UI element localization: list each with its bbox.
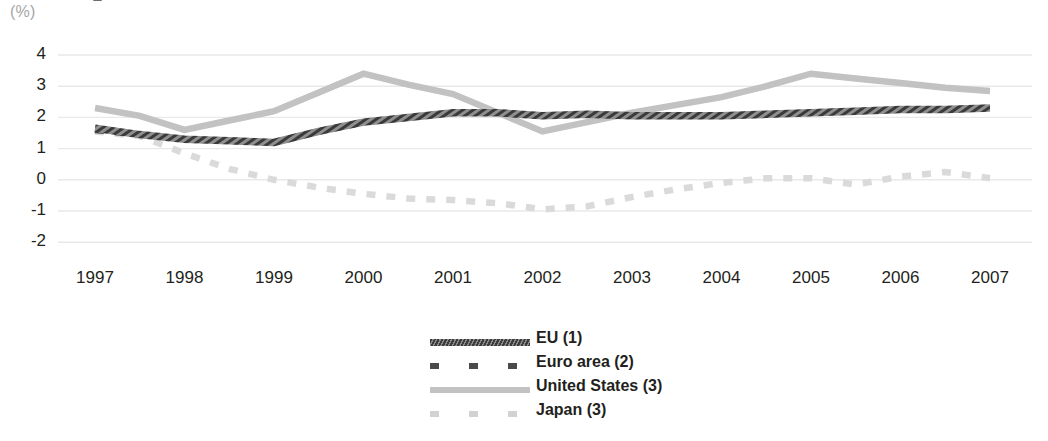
legend-swatch-united-states — [430, 387, 530, 393]
legend-label-eu: EU (1) — [536, 329, 582, 347]
chart-container: (%) 43210-1-2 19971998199920002001200220… — [0, 0, 1048, 441]
legend-label-japan: Japan (3) — [536, 401, 606, 419]
legend-label-euro-area: Euro area (2) — [536, 353, 634, 371]
legend-swatch-japan — [430, 411, 530, 417]
series-line — [95, 74, 990, 132]
legend-item-japan: Japan (3) — [430, 398, 850, 422]
legend-label-united-states: United States (3) — [536, 377, 662, 395]
series-line — [95, 108, 990, 142]
legend-item-united-states: United States (3) — [430, 374, 850, 398]
legend-item-eu: EU (1) — [430, 326, 850, 350]
legend-swatch-eu — [430, 339, 530, 346]
chart-legend: EU (1) Euro area (2) United States (3) J… — [430, 326, 850, 422]
legend-item-euro-area: Euro area (2) — [430, 350, 850, 374]
series-lines — [95, 74, 990, 210]
legend-swatch-euro-area — [430, 363, 530, 369]
